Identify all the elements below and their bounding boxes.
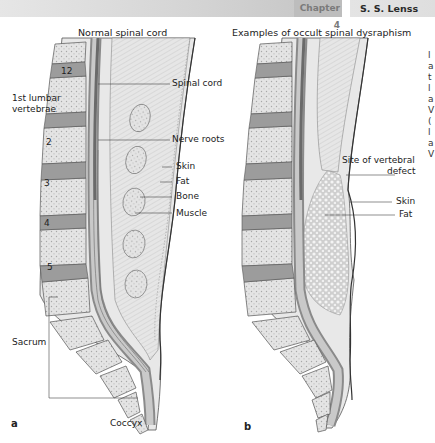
side-text-fragment: l: [428, 83, 431, 94]
panel-a-letter: a: [11, 418, 18, 429]
label-sacrum: Sacrum: [12, 337, 46, 348]
label-skin-a: Skin: [176, 161, 195, 172]
label-nerve-roots: Nerve roots: [172, 134, 224, 145]
panel-a-title: Normal spinal cord: [78, 27, 167, 38]
label-1st-lumbar: 1st lumbar: [12, 93, 61, 104]
panel-b-letter: b: [244, 421, 251, 432]
label-bone: Bone: [176, 191, 199, 202]
label-coccyx: Coccyx: [110, 418, 142, 429]
label-vertebra-12: 12: [61, 66, 72, 77]
label-vertebra-3: 3: [44, 178, 50, 189]
side-text-fragment: a: [428, 138, 434, 149]
side-text-fragment: a: [428, 94, 434, 105]
label-fat-a: Fat: [176, 176, 189, 187]
label-skin-b: Skin: [396, 196, 415, 207]
label-vertebrae: vertebrae: [12, 104, 56, 115]
side-text-fragment: l: [428, 50, 431, 61]
side-text-fragment: V: [428, 149, 434, 160]
panel-a-drawing: [40, 38, 195, 434]
side-text-fragment: a: [428, 61, 434, 72]
side-text-fragment: l: [428, 127, 431, 138]
label-fat-b: Fat: [399, 209, 412, 220]
label-site-of-vertebral: Site of vertebral: [342, 155, 415, 166]
side-text-fragment: (: [428, 116, 432, 127]
label-vertebra-2: 2: [46, 137, 52, 148]
side-text-fragment: t: [428, 72, 432, 83]
side-text-fragment: V: [428, 105, 434, 116]
label-defect: defect: [387, 166, 415, 177]
panel-b-title: Examples of occult spinal dysraphism: [232, 27, 411, 38]
label-vertebra-4: 4: [44, 218, 50, 229]
label-muscle: Muscle: [176, 208, 207, 219]
label-spinal-cord: Spinal cord: [172, 78, 222, 89]
panel-b-drawing: [242, 38, 395, 432]
label-vertebra-5: 5: [47, 262, 53, 273]
